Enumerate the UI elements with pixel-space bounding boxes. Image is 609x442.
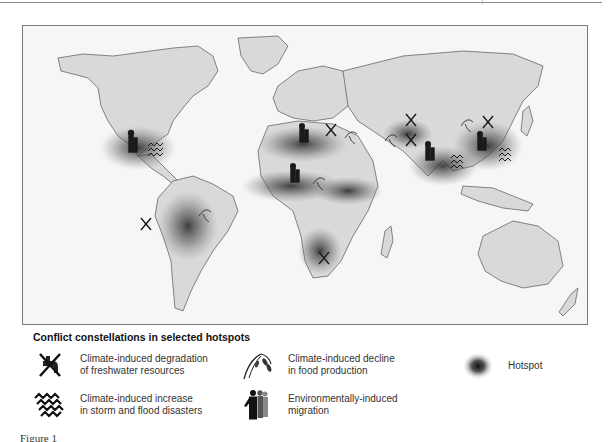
japan — [521, 106, 533, 136]
legend-item-food: Climate-induced decline in food producti… — [238, 350, 395, 380]
world-map-svg — [23, 26, 587, 324]
legend-label-line2: in food production — [288, 365, 395, 377]
legend-title: Conflict constellations in selected hots… — [33, 331, 250, 343]
figure-caption: Figure 1 — [20, 432, 57, 442]
legend-label-line1: Climate-induced degradation — [80, 353, 208, 365]
hotspot-icon — [458, 351, 498, 381]
page-top-tick — [482, 0, 483, 4]
storm-flood-icon — [30, 390, 70, 420]
legend-label-line1: Climate-induced decline — [288, 353, 395, 365]
new-zealand — [559, 288, 578, 316]
legend-item-storm: Climate-induced increase in storm and fl… — [30, 390, 202, 420]
world-map — [22, 25, 588, 325]
madagascar — [381, 226, 393, 258]
page-top-rule — [0, 2, 602, 3]
legend-label-line2: in storm and flood disasters — [80, 405, 202, 417]
australia — [478, 221, 563, 288]
migration-icon — [238, 390, 278, 420]
europe — [273, 66, 353, 121]
legend-label-line1: Hotspot — [508, 360, 542, 372]
greenland — [238, 36, 288, 74]
legend-label-line1: Environmentally-induced — [288, 393, 398, 405]
legend-item-hotspot: Hotspot — [458, 351, 542, 381]
freshwater-degradation-icon — [30, 350, 70, 380]
legend-item-migration: Environmentally-induced migration — [238, 390, 398, 420]
legend-label-line2: migration — [288, 405, 398, 417]
freshwater-icon-andes — [141, 218, 151, 230]
food-decline-icon — [238, 350, 278, 380]
legend-item-freshwater: Climate-induced degradation of freshwate… — [30, 350, 208, 380]
southeast-asia-islands — [461, 186, 533, 211]
legend-label-line1: Climate-induced increase — [80, 393, 202, 405]
legend-label-line2: of freshwater resources — [80, 365, 208, 377]
